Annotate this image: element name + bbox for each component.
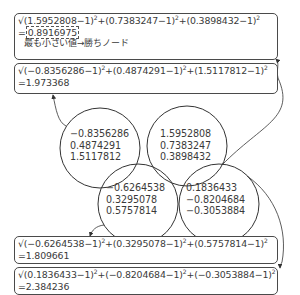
distance-formula: √(0.1836433−1)2+(−0.8204684−1)2+(−0.3053… [18, 269, 274, 281]
distance-box-node-3: √(−0.6264538−1)2+(0.3295078−1)2+(0.57578… [14, 236, 278, 264]
distance-result: =1.809661 [18, 250, 274, 262]
distance-result: =1.973368 [18, 77, 274, 89]
distance-box-node-2: √(1.5952808−1)2+(0.7383247−1)2+(0.389843… [14, 13, 278, 60]
distance-result: =2.384236 [18, 281, 274, 293]
node-2-values: 1.59528080.73832470.3898432 [160, 128, 211, 163]
arrow-node-1-to-box-2 [53, 95, 66, 126]
distance-box-node-4: √(0.1836433−1)2+(−0.8204684−1)2+(−0.3053… [14, 267, 278, 295]
distance-formula: √(−0.8356286−1)2+(0.4874291−1)2+(1.51178… [18, 65, 274, 77]
distance-result: =0.8916975 [18, 27, 274, 39]
winning-value-highlight: 0.8916975 [26, 26, 79, 39]
node-3-values: −0.62645380.32950780.5757814 [106, 182, 165, 217]
distance-formula: √(−0.6264538−1)2+(0.3295078−1)2+(0.57578… [18, 238, 274, 250]
arrow-node-3-to-box-3 [90, 225, 104, 236]
node-1-values: −0.83562860.48742911.5117812 [70, 128, 129, 163]
distance-box-node-1: √(−0.8356286−1)2+(0.4874291−1)2+(1.51178… [14, 63, 278, 94]
winner-note: 最も小さい値→勝ちノード [18, 38, 274, 50]
node-4-values: 0.1836433−0.8204684−0.3053884 [186, 182, 245, 217]
distance-formula: √(1.5952808−1)2+(0.7383247−1)2+(0.389843… [18, 15, 274, 27]
